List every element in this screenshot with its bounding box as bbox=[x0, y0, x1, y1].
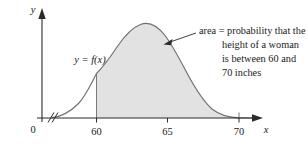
annotation-line-4: 70 inches bbox=[222, 67, 261, 78]
tick-label-60: 60 bbox=[91, 126, 102, 137]
x-axis-label: x bbox=[263, 124, 269, 135]
y-axis-label: y bbox=[30, 4, 36, 15]
tick-label-65: 65 bbox=[162, 126, 173, 137]
origin-label: 0 bbox=[30, 124, 35, 135]
tick-label-70: 70 bbox=[234, 126, 245, 137]
annotation-line-1: area = probability that the bbox=[199, 25, 306, 36]
function-label: y = f(x) bbox=[73, 54, 106, 66]
x-axis-arrowhead bbox=[252, 114, 263, 121]
annotation-leader bbox=[164, 33, 197, 45]
annotation-line-3: is between 60 and bbox=[222, 53, 297, 64]
annotation-line-2: height of a woman bbox=[222, 39, 299, 50]
probability-density-figure: 0 60 65 70 y x y = f(x) area = probabili… bbox=[0, 0, 308, 148]
y-axis-arrowhead bbox=[38, 8, 45, 19]
